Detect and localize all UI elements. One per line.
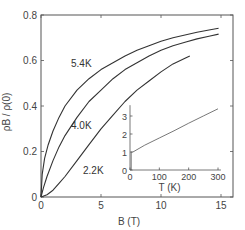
y-tick-label: 0.4 <box>23 101 37 112</box>
x-tick-label: 100 <box>152 172 167 182</box>
y-tick-label: 0.2 <box>23 146 37 157</box>
x-tick-label: 5 <box>98 200 104 211</box>
main-plot-y-axis-title: ρB / ρ(0) <box>1 93 12 132</box>
curve-label: 2.2K <box>83 165 104 176</box>
curve-label: 4.0K <box>71 120 92 131</box>
inset-plot: 01002003000123T (K) <box>122 105 226 193</box>
x-tick-label: 0 <box>38 200 44 211</box>
y-tick-label: 0.8 <box>23 10 37 21</box>
y-tick-label: 0 <box>122 166 127 176</box>
y-tick-label: 2 <box>122 130 127 140</box>
y-tick-label: 1 <box>122 148 127 158</box>
x-tick-label: 200 <box>181 172 196 182</box>
x-tick-label: 0 <box>127 172 132 182</box>
inset-plot-x-axis-title: T (K) <box>158 182 180 193</box>
y-tick-label: 0 <box>31 192 37 203</box>
series-line-t <box>131 109 218 170</box>
main-plot-x-axis-title: B (T) <box>118 216 140 227</box>
x-tick-label: 300 <box>210 172 225 182</box>
chart-figure: 05101500.20.40.60.85.4K4.0K2.2KB (T)ρB /… <box>0 0 245 230</box>
x-tick-label: 15 <box>215 200 227 211</box>
curve-label: 5.4K <box>71 58 92 69</box>
x-tick-label: 10 <box>155 200 167 211</box>
y-tick-label: 0.6 <box>23 55 37 66</box>
y-tick-label: 3 <box>122 112 127 122</box>
